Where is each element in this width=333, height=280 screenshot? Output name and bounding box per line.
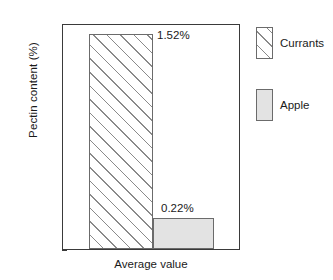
bar-apple[interactable] [153,218,214,249]
legend-label-apple: Apple [280,99,309,111]
y-tick-mark-0 [62,250,67,251]
legend-label-currants: Currants [280,37,324,49]
x-axis-title: Average value [62,258,240,270]
bar-chart-figure: Pectin content (%) 0 0.2 0.4 0.6 0.8 1.0… [0,0,333,280]
legend-swatch-apple-icon [256,89,273,121]
legend-item-currants[interactable]: Currants [256,26,324,60]
legend-item-apple[interactable]: Apple [256,88,309,122]
y-axis-title: Pectin content (%) [27,0,39,185]
plot-area [62,24,240,250]
bar-currants[interactable] [89,34,153,249]
legend-swatch-currants-icon [256,27,273,59]
data-label-apple: 0.22% [161,203,194,215]
data-label-currants: 1.52% [157,30,190,42]
